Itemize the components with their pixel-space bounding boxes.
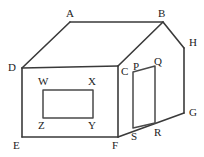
vertex-label-E: E (13, 140, 20, 151)
vertex-label-A: A (66, 8, 74, 19)
vertex-label-C: C (121, 66, 128, 77)
vertex-label-S: S (131, 131, 137, 142)
vertex-label-G: G (189, 107, 197, 118)
vertex-label-H: H (189, 37, 197, 48)
vertex-label-Q: Q (154, 56, 162, 67)
vertex-label-Y: Y (88, 120, 96, 131)
vertex-label-R: R (154, 127, 161, 138)
vertex-label-P: P (133, 61, 139, 72)
vertex-label-F: F (112, 140, 118, 151)
vertex-label-X: X (88, 76, 96, 87)
front-face (22, 66, 118, 137)
vertex-label-B: B (158, 8, 165, 19)
house-diagram (0, 0, 204, 157)
diagram-canvas: A B H G D C E F P Q S R W X Y Z (0, 0, 204, 157)
vertex-label-Z: Z (38, 120, 45, 131)
vertex-label-D: D (8, 62, 16, 73)
vertex-label-W: W (38, 76, 48, 87)
